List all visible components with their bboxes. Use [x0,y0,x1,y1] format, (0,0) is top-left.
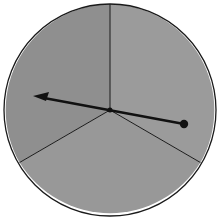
pointer-tail-dot [180,120,188,128]
spinner-diagram [0,0,220,221]
pivot-icon [108,108,113,113]
